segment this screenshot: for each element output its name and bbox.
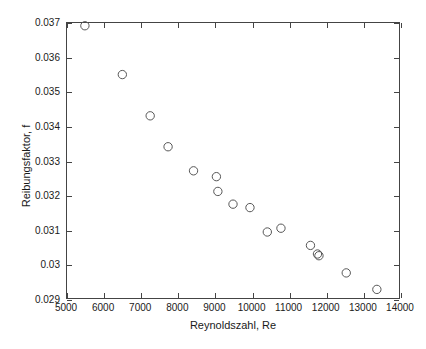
data-point — [214, 187, 222, 195]
y-axis-tick — [67, 127, 72, 128]
x-axis-tick-label: 11000 — [275, 302, 302, 314]
y-axis-tick — [394, 300, 399, 301]
data-point — [277, 224, 285, 232]
x-axis-tick — [104, 293, 105, 298]
x-axis-tick — [215, 23, 216, 28]
data-point — [81, 22, 89, 30]
x-axis-tick-label: 13000 — [349, 302, 377, 314]
y-axis-tick — [67, 265, 72, 266]
x-axis-tick-label: 10000 — [238, 302, 266, 314]
y-axis-tick-label: 0.03 — [16, 259, 60, 270]
y-axis-tick — [394, 23, 399, 24]
y-axis-tick — [394, 58, 399, 59]
x-axis-tick — [104, 23, 105, 28]
x-axis-tick — [327, 23, 328, 28]
data-points-layer — [67, 23, 399, 298]
x-axis-tick-label: 9000 — [203, 302, 225, 314]
y-axis-tick-label: 0.029 — [16, 294, 60, 305]
y-axis-tick — [67, 162, 72, 163]
y-axis-tick — [67, 231, 72, 232]
x-axis-tick — [178, 293, 179, 298]
y-axis-tick-label: 0.037 — [16, 17, 60, 28]
x-axis-tick — [364, 23, 365, 28]
x-axis-tick — [253, 293, 254, 298]
data-point — [189, 167, 197, 175]
data-point — [342, 269, 350, 277]
y-axis-tick — [394, 196, 399, 197]
x-axis-tick — [290, 293, 291, 298]
data-point — [212, 172, 220, 180]
y-axis-tick — [394, 231, 399, 232]
scatter-plot-figure: 5000600070008000900010000110001200013000… — [0, 0, 426, 349]
x-axis-tick-label: 8000 — [166, 302, 188, 314]
y-axis-tick — [67, 92, 72, 93]
x-axis-tick — [327, 293, 328, 298]
y-axis-title: Reibungsfaktor, f — [20, 86, 32, 246]
data-point — [164, 143, 172, 151]
x-axis-tick — [67, 293, 68, 298]
x-axis-tick — [253, 23, 254, 28]
y-axis-tick — [67, 300, 72, 301]
plot-area — [66, 22, 400, 299]
x-axis-tick — [290, 23, 291, 28]
data-point — [146, 112, 154, 120]
data-point — [306, 241, 314, 249]
y-axis-tick — [394, 92, 399, 93]
y-axis-tick — [394, 127, 399, 128]
y-axis-tick-label: 0.036 — [16, 51, 60, 62]
x-axis-tick — [364, 293, 365, 298]
x-axis-title: Reynoldszahl, Re — [66, 319, 400, 331]
y-axis-tick — [394, 162, 399, 163]
x-axis-tick-label: 7000 — [129, 302, 151, 314]
data-point — [246, 203, 254, 211]
x-axis-tick — [401, 23, 402, 28]
x-axis-tick — [215, 293, 216, 298]
x-axis-tick-label: 5000 — [55, 302, 77, 314]
y-axis-tick — [394, 265, 399, 266]
data-point — [315, 252, 323, 260]
data-point — [263, 228, 271, 236]
data-point — [373, 285, 381, 293]
x-axis-tick-label: 6000 — [92, 302, 114, 314]
y-axis-tick — [67, 58, 72, 59]
x-axis-tick-label: 14000 — [386, 302, 414, 314]
x-axis-tick — [141, 23, 142, 28]
x-axis-tick — [401, 293, 402, 298]
x-axis-tick — [178, 23, 179, 28]
x-axis-tick — [141, 293, 142, 298]
data-point — [118, 70, 126, 78]
x-axis-tick-label: 12000 — [312, 302, 340, 314]
data-point — [229, 200, 237, 208]
y-axis-tick — [67, 196, 72, 197]
y-axis-tick — [67, 23, 72, 24]
